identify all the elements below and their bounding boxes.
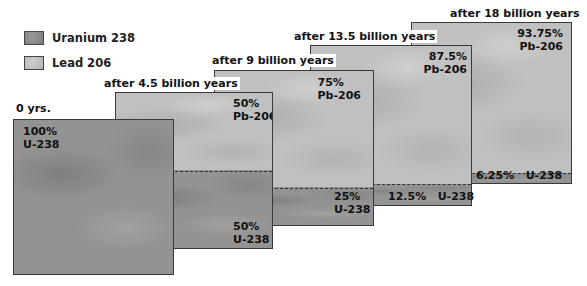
uranium-percentage: 50% U-238 — [233, 220, 269, 246]
panel-title-18by: after 18 billion years — [448, 7, 582, 20]
lead-percentage: 87.5% Pb-206 — [424, 50, 467, 76]
uranium-percentage-9by: 25% U-238 — [334, 190, 370, 216]
lead-percentage: 50% Pb-206 — [233, 97, 273, 123]
panel-title-0yrs: 0 yrs. — [14, 102, 53, 115]
legend-item-lead: Lead 206 — [24, 56, 111, 70]
legend-label-uranium: Uranium 238 — [52, 31, 135, 45]
panel-0-years: 100% U-238 — [13, 119, 174, 275]
lead-percentage: 93.75% Pb-206 — [517, 27, 563, 53]
uranium-percentage: 100% U-238 — [23, 125, 59, 151]
lead-swatch — [24, 56, 44, 70]
lead-percentage: 75% Pb-206 — [318, 76, 361, 102]
legend-label-lead: Lead 206 — [52, 56, 111, 70]
uranium-percentage-18by: 6.25% U-238 — [476, 169, 562, 182]
panel-title-9by: after 9 billion years — [210, 54, 336, 67]
uranium-percentage-13-5by: 12.5% U-238 — [388, 190, 474, 203]
panel-title-4-5by: after 4.5 billion years — [102, 77, 240, 90]
panel-title-13-5by: after 13.5 billion years — [292, 30, 437, 43]
legend-item-uranium: Uranium 238 — [24, 31, 135, 45]
uranium-swatch — [24, 31, 44, 45]
